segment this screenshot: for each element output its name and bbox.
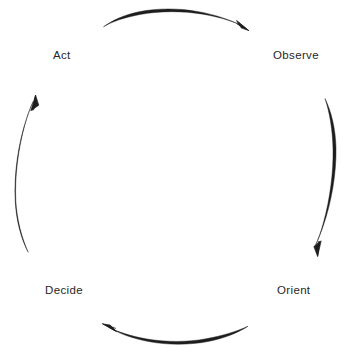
ooda-loop-diagram: Act Observe Orient Decide	[0, 0, 347, 354]
node-label-act: Act	[53, 50, 71, 62]
arrow-decide-to-act	[15, 95, 39, 252]
arrow-act-to-observe-shaft	[104, 9, 244, 27]
arrow-orient-to-decide	[103, 324, 249, 344]
arrow-act-to-observe	[104, 9, 249, 31]
arrow-decide-to-act-shaft	[15, 101, 33, 252]
node-label-observe: Observe	[273, 50, 319, 62]
arrow-orient-to-decide-shaft	[110, 326, 249, 344]
arrow-decide-to-act-head-fill	[31, 95, 39, 111]
arrow-observe-to-orient-shaft	[315, 99, 336, 246]
arrow-observe-to-orient-head-fill	[314, 241, 321, 257]
node-label-orient: Orient	[277, 285, 310, 297]
arrow-observe-to-orient	[314, 99, 336, 257]
arrow-act-to-observe-head-fill	[236, 20, 248, 30]
node-label-decide: Decide	[45, 285, 83, 297]
